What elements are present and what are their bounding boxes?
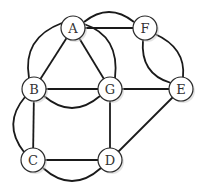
node-c: C [21, 148, 47, 174]
node-b: B [22, 77, 48, 103]
node-d: D [98, 148, 124, 174]
node-a: A [61, 16, 87, 42]
node-label-a: A [67, 21, 78, 36]
node-label-c: C [28, 153, 38, 168]
graph-svg: A F B G E [0, 0, 210, 194]
node-label-b: B [29, 82, 39, 97]
edge-b-g-arc [44, 96, 100, 108]
node-f: F [133, 16, 159, 42]
edge-f-e-arc-left [143, 40, 171, 83]
edge-c-d-arc [43, 168, 101, 181]
node-label-g: G [105, 82, 115, 97]
edge-b-c-arc [13, 97, 25, 152]
node-e: E [169, 77, 195, 103]
node-label-d: D [105, 153, 115, 168]
node-label-e: E [176, 82, 186, 97]
node-label-f: F [140, 21, 149, 36]
edge-a-f-arc [84, 12, 134, 22]
edge-d-e-straight [110, 89, 181, 160]
node-g: G [98, 77, 124, 103]
edge-f-e-arc-right [155, 34, 183, 77]
edge-a-b-arc [28, 23, 62, 78]
graph-diagram: A F B G E [0, 0, 210, 194]
edge-a-g-arc [84, 24, 116, 78]
